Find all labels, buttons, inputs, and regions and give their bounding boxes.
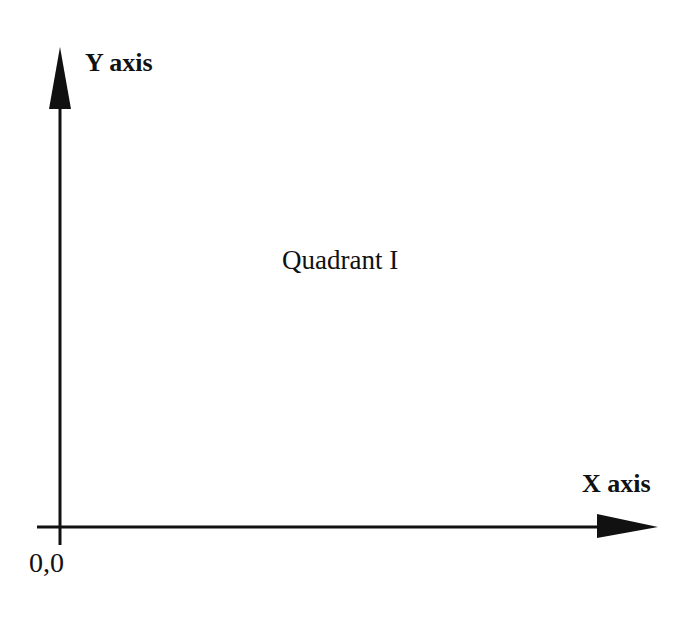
coordinate-axes-figure — [0, 0, 683, 618]
diagram-canvas: Y axis X axis Quadrant I 0,0 — [0, 0, 683, 618]
quadrant-label: Quadrant I — [282, 247, 398, 274]
x-axis-arrow-icon — [597, 514, 658, 538]
origin-label: 0,0 — [29, 549, 64, 577]
x-axis-label: X axis — [582, 471, 651, 497]
y-axis-arrow-icon — [49, 47, 71, 109]
y-axis-label: Y axis — [85, 50, 153, 76]
